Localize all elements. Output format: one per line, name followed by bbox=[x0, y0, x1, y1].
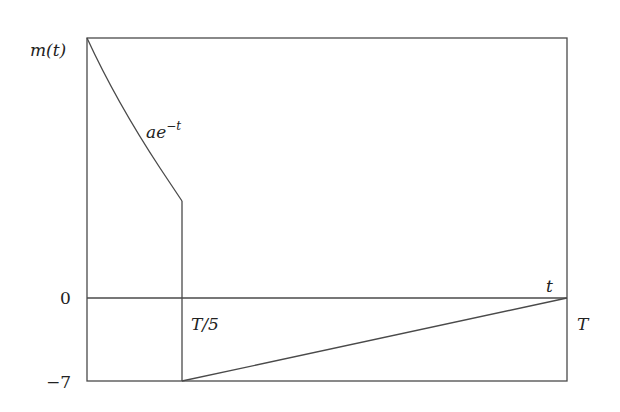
mass-function-diagram: m(t) 0 −7 T/5 T t ae−t bbox=[0, 0, 620, 412]
linear-ramp-line bbox=[182, 298, 567, 381]
curve-label-base: ae bbox=[146, 122, 166, 142]
curve-label-exponent: −t bbox=[166, 119, 181, 133]
plot-frame bbox=[87, 38, 567, 381]
x-tick-end: T bbox=[577, 314, 590, 334]
curve-label: ae−t bbox=[146, 119, 181, 142]
y-axis-label: m(t) bbox=[30, 40, 66, 60]
x-tick-fifth: T/5 bbox=[191, 314, 219, 334]
y-tick-zero: 0 bbox=[60, 288, 71, 308]
x-axis-var-label: t bbox=[546, 276, 553, 296]
y-tick-min: −7 bbox=[46, 372, 71, 392]
